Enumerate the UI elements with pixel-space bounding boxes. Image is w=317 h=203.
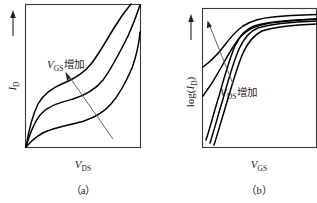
panel-a-y-axis-arrow-icon [10,10,16,36]
panel-a-x-axis-label: VDS [75,158,91,173]
panel-a-annotation-cjk: 增加 [64,58,84,70]
panel-b-x-axis-label-sub: GS [258,164,268,173]
panel-a-y-axis-label: ID [6,81,21,92]
figure-container: VGS增加 ID VDS （a） [0,0,317,203]
panel-a-y-axis-label-sub: D [12,81,21,87]
panel-b-y-axis-label-suffix: ) [184,76,197,80]
panel-b-curve-5 [214,24,317,145]
panel-b-curve-4 [203,19,317,96]
figure-svg: VGS增加 ID VDS （a） [0,0,317,203]
panel-a-annotation-label: VGS增加 [47,58,84,73]
panel-b-y-axis-label-prefix: log( [184,89,197,107]
panel-b-y-axis-label: log(ID) [184,76,199,107]
panel-b: VDS增加 log(ID) VGS （b） [184,9,317,197]
panel-a-curve-3 [26,4,131,147]
panel-b-x-axis-label: VGS [251,158,267,173]
panel-b-y-axis-arrow-icon [188,14,194,40]
panel-a: VGS增加 ID VDS （a） [6,4,141,196]
panel-a-curve-2 [26,5,140,147]
panel-b-curve-2 [206,19,317,140]
panel-b-annotation-cjk: 增加 [237,86,257,98]
panel-b-caption: （b） [246,185,271,196]
panel-a-annotation-leader [66,72,114,140]
panel-b-curve-1 [210,21,317,143]
panel-b-annotation-label: VDS增加 [220,86,257,101]
panel-a-caption: （a） [71,185,96,196]
panel-a-annotation-sub: GS [54,64,64,73]
panel-a-x-axis-label-sub: DS [82,164,92,173]
panel-a-plot-frame [26,5,141,148]
panel-b-annotation-sub: DS [227,92,237,101]
panel-a-curve-1 [26,32,140,147]
